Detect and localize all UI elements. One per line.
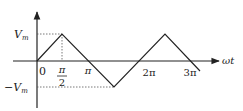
neg-vm-label: −Vm xyxy=(4,81,28,95)
tick-0: 0 xyxy=(39,65,46,78)
triangular-wave-diagram: Vm −Vm 0 π 2 π 2π 3π ωt xyxy=(0,0,243,111)
tick-3pi: 3π xyxy=(184,67,197,78)
x-axis-label: ωt xyxy=(222,55,235,66)
tick-pi-half-den: 2 xyxy=(59,77,65,88)
diagram-svg: Vm −Vm 0 π 2 π 2π 3π ωt xyxy=(0,0,243,111)
vm-label: Vm xyxy=(14,28,29,42)
tick-pi: π xyxy=(84,65,92,76)
tick-2pi: 2π xyxy=(143,67,156,78)
tick-pi-half-num: π xyxy=(58,64,66,75)
